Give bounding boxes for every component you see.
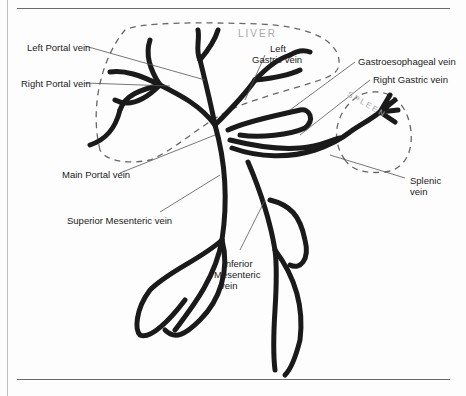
label-right-gastric-vein: Right Gastric vein [373, 74, 448, 85]
label-inferior-mesenteric-line2: Mesenteric [214, 269, 260, 280]
label-splenic-vein-line2: vein [410, 186, 427, 197]
label-inferior-mesenteric-line3: vein [220, 280, 237, 291]
label-splenic-vein-line1: Splenic [410, 175, 441, 186]
vessels [90, 30, 398, 375]
label-inferior-mesenteric-line1: Inferior [223, 258, 253, 269]
label-left-gastric-line1: Left [270, 43, 286, 54]
liver-label: LIVER [238, 28, 277, 39]
label-main-portal-vein: Main Portal vein [62, 169, 130, 180]
label-left-portal-vein: Left Portal vein [27, 42, 90, 53]
label-right-portal-vein: Right Portal vein [21, 78, 91, 89]
label-gastroesophageal-vein: Gastroesophageal vein [358, 56, 456, 67]
label-superior-mesenteric-vein: Superior Mesenteric vein [67, 215, 172, 226]
diagram-page: LIVER SPLEEN Left Portal vein Right Port… [0, 0, 466, 396]
label-left-gastric-line2: Gastric vein [252, 54, 302, 65]
